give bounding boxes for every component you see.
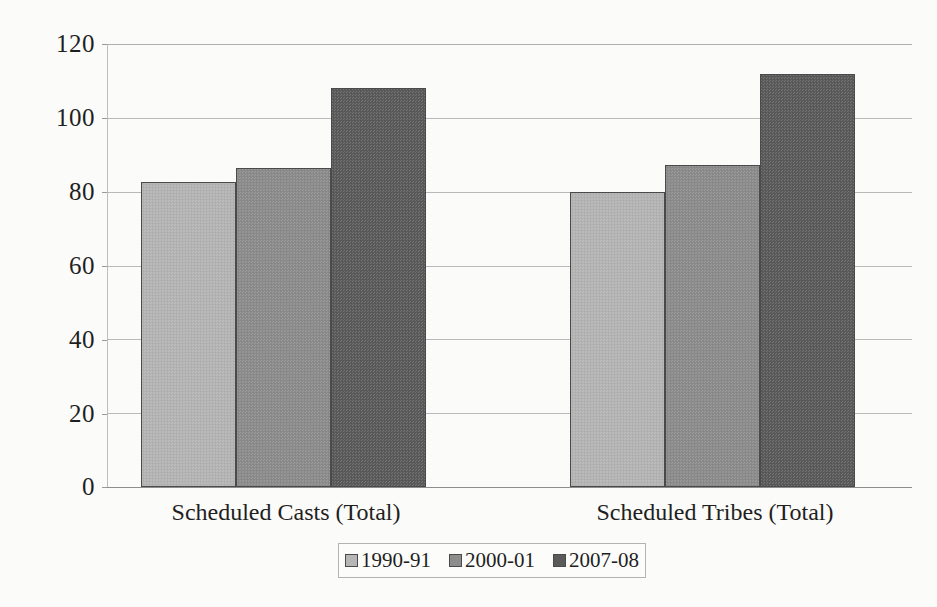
bar-tribes-2000-01[interactable] — [665, 165, 760, 487]
legend-item-2007-08[interactable]: 2007-08 — [553, 550, 639, 571]
legend-swatch-icon-2007-08 — [553, 554, 566, 567]
bar-casts-1990-91[interactable] — [141, 182, 236, 487]
bar-casts-2007-08[interactable] — [331, 88, 426, 487]
bar-chart-figure: 120 100 80 60 40 20 0 Scheduled Casts (T… — [0, 0, 937, 607]
y-tick-label-60: 60 — [5, 253, 95, 278]
y-tick-label-120: 120 — [5, 31, 95, 56]
bar-tribes-2007-08[interactable] — [760, 74, 855, 487]
x-category-label-scheduled-tribes: Scheduled Tribes (Total) — [490, 498, 937, 526]
x-category-label-scheduled-casts: Scheduled Casts (Total) — [61, 498, 511, 526]
gridline-0-baseline — [107, 487, 912, 488]
legend-label-2007-08: 2007-08 — [569, 550, 639, 571]
legend-item-2000-01[interactable]: 2000-01 — [449, 550, 535, 571]
gridline-120 — [107, 44, 912, 45]
y-tick-label-40: 40 — [5, 327, 95, 352]
legend-swatch-icon-1990-91 — [345, 554, 358, 567]
y-tick-label-100: 100 — [5, 105, 95, 130]
legend-swatch-icon-2000-01 — [449, 554, 462, 567]
legend-label-2000-01: 2000-01 — [465, 550, 535, 571]
y-tick-label-0: 0 — [5, 474, 95, 499]
bar-casts-2000-01[interactable] — [236, 168, 331, 487]
chart-legend: 1990-91 2000-01 2007-08 — [338, 543, 646, 578]
plot-area — [107, 44, 912, 487]
legend-item-1990-91[interactable]: 1990-91 — [345, 550, 431, 571]
y-tick-label-20: 20 — [5, 401, 95, 426]
legend-label-1990-91: 1990-91 — [361, 550, 431, 571]
bar-tribes-1990-91[interactable] — [570, 192, 665, 487]
y-tick-label-80: 80 — [5, 179, 95, 204]
